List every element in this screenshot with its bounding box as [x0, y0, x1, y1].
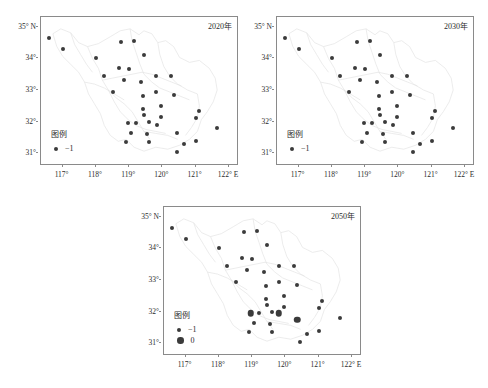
y-axis-tick-label: 32°: [26, 116, 37, 125]
scatter-point: [451, 126, 455, 130]
legend-dot-small-icon: [54, 147, 58, 151]
scatter-point: [295, 283, 299, 287]
scatter-point: [383, 140, 387, 144]
x-axis-tick-label: 117°: [178, 360, 192, 369]
scatter-point: [225, 264, 229, 268]
scatter-point: [240, 256, 244, 260]
scatter-point: [363, 67, 367, 71]
plot-frame-2020: 2020年 图例 −1: [40, 16, 238, 165]
scatter-point: [298, 340, 302, 344]
scatter-point: [61, 47, 65, 51]
panel-2050: 2050年 图例 −1 0 35° N34°33°32°31° 117°118°…: [163, 206, 361, 355]
scatter-point: [245, 268, 249, 272]
scatter-point: [297, 47, 301, 51]
panel-title-2050: 2050年: [331, 210, 355, 221]
scatter-point: [262, 270, 266, 274]
scatter-point: [142, 113, 146, 117]
scatter-point: [122, 78, 126, 82]
y-axis-tick-mark: [36, 89, 38, 90]
scatter-point: [338, 74, 342, 78]
plot-frame-2030: 2030年 图例 −1: [276, 16, 474, 165]
y-axis-tick-label: 32°: [262, 116, 273, 125]
plot-frame-2050: 2050年 图例 −1 0: [163, 206, 361, 355]
legend-item-label: −1: [188, 325, 197, 334]
y-axis-tick-label: 31°: [26, 148, 37, 157]
scatter-point: [265, 243, 269, 247]
y-axis-tick-label: 33°: [26, 84, 37, 93]
scatter-point: [94, 56, 98, 60]
scatter-point: [377, 94, 381, 98]
panel-2030: 2030年 图例 −1 35° N34°33°32°31° 117°118°11…: [276, 16, 474, 165]
scatter-point: [283, 36, 287, 40]
scatter-point: [378, 113, 382, 117]
scatter-point: [375, 80, 379, 84]
x-axis-tick-label: 117°: [55, 170, 69, 179]
scatter-point: [47, 36, 51, 40]
panel-2020: 2020年 图例 −1 35° N34°33°32°31° 117°118°11…: [40, 16, 238, 165]
scatter-point: [381, 132, 385, 136]
panel-title-2030: 2030年: [444, 20, 468, 31]
y-axis-tick-mark: [272, 57, 274, 58]
scatter-point: [277, 264, 281, 268]
x-axis-tick-mark: [185, 355, 186, 357]
scatter-point: [378, 53, 382, 57]
legend-dot-small-icon: [177, 328, 181, 332]
scatter-point: [184, 237, 188, 241]
x-axis-tick-label: 119°: [121, 170, 135, 179]
x-axis-tick-label: 122° E: [218, 170, 239, 179]
legend-item: −1: [174, 324, 197, 335]
scatter-point: [117, 66, 121, 70]
x-axis-tick-mark: [464, 165, 465, 167]
x-axis-tick-mark: [351, 355, 352, 357]
scatter-point: [358, 78, 362, 82]
scatter-point: [305, 332, 309, 336]
x-axis-tick-label: 121°: [311, 360, 325, 369]
scatter-point: [395, 115, 399, 119]
scatter-point: [197, 109, 201, 113]
scatter-point: [111, 90, 115, 94]
x-axis-tick-label: 122° E: [341, 360, 362, 369]
y-axis-tick-label: 31°: [149, 338, 160, 347]
scatter-point: [147, 120, 151, 124]
y-axis-tick-mark: [272, 121, 274, 122]
y-axis-tick-mark: [159, 247, 161, 248]
y-axis-tick-mark: [36, 152, 38, 153]
x-axis-tick-label: 120°: [390, 170, 404, 179]
y-axis-tick-label: 34°: [262, 53, 273, 62]
scatter-point: [317, 306, 321, 310]
x-axis-tick-mark: [228, 165, 229, 167]
scatter-point: [252, 321, 256, 325]
y-axis-tick-mark: [272, 152, 274, 153]
scatter-point: [170, 226, 174, 230]
scatter-point: [129, 131, 133, 135]
scatter-point: [139, 80, 143, 84]
scatter-point: [102, 74, 106, 78]
scatter-point: [338, 316, 342, 320]
x-axis-tick-label: 117°: [291, 170, 305, 179]
x-axis-tick-mark: [128, 165, 129, 167]
scatter-point: [294, 316, 301, 323]
scatter-point: [175, 150, 179, 154]
y-axis-tick-mark: [36, 121, 38, 122]
scatter-point: [234, 280, 238, 284]
scatter-point: [126, 121, 130, 125]
scatter-point: [292, 264, 296, 268]
scatter-point: [147, 140, 151, 144]
scatter-point: [217, 246, 221, 250]
scatter-point: [276, 310, 283, 317]
y-axis-labels-2030: 35° N34°33°32°31°: [238, 16, 272, 165]
scatter-point: [355, 40, 359, 44]
x-axis-tick-label: 121°: [424, 170, 438, 179]
scatter-point: [377, 107, 381, 111]
scatter-point: [320, 299, 324, 303]
y-axis-labels-2050: 35° N34°33°32°31°: [125, 206, 159, 355]
scatter-point: [159, 115, 163, 119]
y-axis-tick-label: 33°: [149, 274, 160, 283]
scatter-point: [317, 329, 321, 333]
scatter-point: [282, 305, 286, 309]
x-axis-tick-mark: [318, 355, 319, 357]
x-axis-tick-mark: [284, 355, 285, 357]
x-axis-tick-label: 120°: [277, 360, 291, 369]
scatter-point: [411, 150, 415, 154]
legend-dot-large-icon: [177, 337, 184, 344]
